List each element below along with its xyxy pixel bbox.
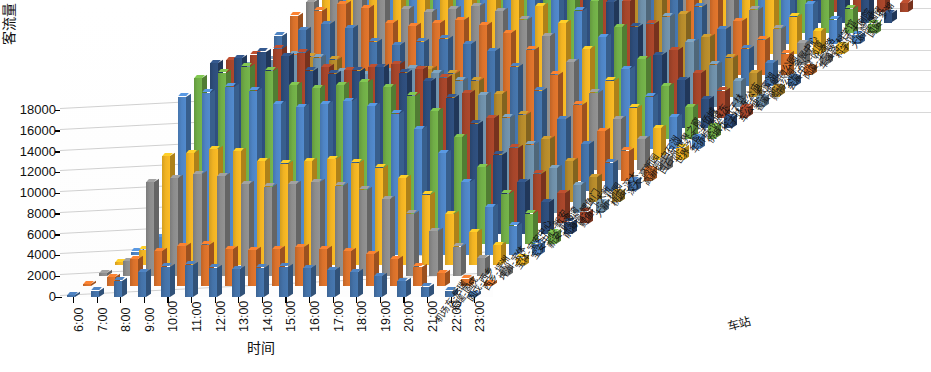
bar-column xyxy=(350,272,358,297)
x-axis-tick-label: 8:00 xyxy=(119,308,133,332)
bar-side-face xyxy=(122,278,127,297)
bar-side-face xyxy=(438,228,443,276)
bar-top-face xyxy=(327,267,338,270)
bar-front-face xyxy=(350,272,358,297)
x-axis-tick-mark xyxy=(333,297,334,303)
x-axis-tick-label: 18:00 xyxy=(355,301,369,332)
x-axis-tick-mark xyxy=(144,297,145,303)
x-axis-tick-label: 15:00 xyxy=(284,301,298,332)
bar-column xyxy=(279,267,287,297)
bar-front-face xyxy=(374,276,382,297)
bar-column xyxy=(437,273,445,286)
bar-front-face xyxy=(421,287,429,297)
bar-front-face xyxy=(900,3,908,12)
x-axis-tick-mark xyxy=(97,297,98,303)
bar-side-face xyxy=(445,270,450,286)
x-axis-tick-label: 17:00 xyxy=(332,301,346,332)
bar-top-face xyxy=(423,78,434,81)
bar-front-face xyxy=(256,268,264,297)
x-axis-tick-mark xyxy=(427,297,428,303)
bar-front-face xyxy=(83,284,91,286)
bar-front-face xyxy=(185,265,193,297)
bar-column xyxy=(99,273,107,276)
x-axis-tick-mark xyxy=(167,297,168,303)
bar-column xyxy=(397,281,405,297)
bar-column xyxy=(413,267,421,287)
x-axis-title: 时间 xyxy=(247,337,275,357)
x-axis-tick-mark xyxy=(215,297,216,303)
x-axis-tick-mark xyxy=(403,297,404,303)
bar-side-face xyxy=(358,269,363,297)
bar-side-face xyxy=(240,266,245,297)
x-axis-tick-mark xyxy=(309,297,310,303)
bar-side-face xyxy=(461,243,466,275)
bar-column xyxy=(256,268,264,297)
x-axis-tick-label: 7:00 xyxy=(96,308,110,332)
bar-side-face xyxy=(217,265,222,297)
bar-column xyxy=(374,276,382,297)
passenger-flow-3d-chart: 客流量（人次） 18000160001400012000100008000600… xyxy=(0,0,931,372)
bar-column xyxy=(185,265,193,297)
bar-front-face xyxy=(429,231,437,276)
x-axis-tick-label: 12:00 xyxy=(214,301,228,332)
bar-side-face xyxy=(264,265,269,297)
bar-front-face xyxy=(161,267,169,297)
bar-front-face xyxy=(413,267,421,287)
bar-front-face xyxy=(138,272,146,297)
bar-column xyxy=(900,3,908,12)
bar-column xyxy=(138,272,146,297)
bar-front-face xyxy=(437,273,445,286)
bar-front-face xyxy=(209,268,217,297)
bar-column xyxy=(453,247,461,276)
bar-front-face xyxy=(114,281,122,297)
bar-column xyxy=(232,269,240,297)
x-axis-tick-mark xyxy=(285,297,286,303)
bar-front-face xyxy=(327,270,335,297)
bar-front-face xyxy=(232,269,240,297)
x-axis-tick-mark xyxy=(191,297,192,303)
bar-top-face xyxy=(685,104,696,107)
x-axis-tick-label: 10:00 xyxy=(166,301,180,332)
x-axis-tick-mark xyxy=(120,297,121,303)
bar-side-face xyxy=(406,278,411,297)
x-axis-tick-label: 19:00 xyxy=(379,301,393,332)
x-axis-tick-label: 13:00 xyxy=(237,301,251,332)
x-axis-tick-label: 11:00 xyxy=(190,302,204,332)
x-axis-tick-label: 23:00 xyxy=(473,301,487,332)
bar-side-face xyxy=(288,263,293,296)
bar-side-face xyxy=(170,263,175,296)
bar-column xyxy=(83,284,91,286)
bar-side-face xyxy=(335,267,340,297)
x-axis-tick-mark xyxy=(262,297,263,303)
bar-front-face xyxy=(279,267,287,297)
bar-side-face xyxy=(382,273,387,297)
bar-column xyxy=(114,281,122,297)
bar-front-face xyxy=(453,247,461,276)
x-axis-tick-mark xyxy=(380,297,381,303)
x-axis-tick-mark xyxy=(356,297,357,303)
bar-column xyxy=(421,287,429,297)
x-axis-tick-label: 14:00 xyxy=(261,301,275,332)
bar-side-face xyxy=(311,265,316,297)
x-axis-tick-label: 20:00 xyxy=(402,301,416,332)
bar-column xyxy=(429,231,437,276)
x-axis-tick-label: 6:00 xyxy=(72,308,86,332)
bar-column xyxy=(209,268,217,297)
bar-front-face xyxy=(303,268,311,297)
bar-front-face xyxy=(397,281,405,297)
bar-column xyxy=(303,268,311,297)
x-axis-tick-label: 9:00 xyxy=(143,308,157,332)
bar-side-face xyxy=(146,269,151,297)
bar-column xyxy=(161,267,169,297)
bar-column xyxy=(327,270,335,297)
bar-front-face xyxy=(99,273,107,276)
bar-side-face xyxy=(193,261,198,297)
x-axis-tick-label: 16:00 xyxy=(308,301,322,332)
x-axis-tick-mark xyxy=(73,297,74,303)
x-axis-tick-mark xyxy=(238,297,239,303)
